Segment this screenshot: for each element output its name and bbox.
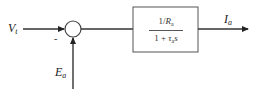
fraction-bar [149, 30, 183, 31]
minus-sign-label: - [54, 34, 57, 44]
ia-label: Ia [224, 13, 232, 27]
transfer-numerator: 1/Ra [158, 17, 173, 27]
ea-label: Ea [55, 66, 66, 80]
transfer-denominator: 1 + τas [154, 34, 178, 44]
transfer-function: 1/Ra 1 + τas [134, 8, 198, 52]
vt-label: Vt [8, 22, 18, 36]
block-diagram-canvas [0, 0, 262, 92]
summing-junction [65, 21, 81, 37]
